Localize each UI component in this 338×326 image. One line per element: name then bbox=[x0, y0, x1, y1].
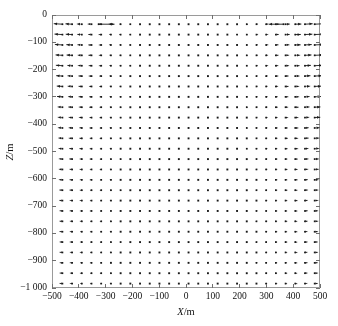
y-axis-tick bbox=[316, 124, 320, 125]
x-axis-tick bbox=[266, 284, 267, 288]
y-axis-tick bbox=[316, 151, 320, 152]
x-axis-tick-label: 300 bbox=[259, 292, 273, 302]
x-axis-tick bbox=[239, 15, 240, 19]
x-axis-tick bbox=[132, 15, 133, 19]
y-axis-tick-label: −700 bbox=[27, 201, 47, 211]
x-axis-tick-label: 0 bbox=[184, 292, 189, 302]
x-axis-tick bbox=[212, 284, 213, 288]
quiver-field-canvas bbox=[53, 16, 321, 289]
y-axis-tick-label: −1 000 bbox=[20, 283, 47, 293]
x-axis-tick bbox=[239, 284, 240, 288]
y-axis-tick-label: −100 bbox=[27, 38, 47, 48]
x-axis-tick-label: −300 bbox=[96, 292, 116, 302]
x-axis-tick bbox=[186, 15, 187, 19]
y-axis-tick bbox=[316, 233, 320, 234]
x-axis-tick bbox=[159, 15, 160, 19]
y-axis-tick-label: −600 bbox=[27, 174, 47, 184]
y-axis-tick bbox=[316, 96, 320, 97]
y-axis-tick bbox=[52, 260, 56, 261]
y-axis-tick bbox=[52, 288, 56, 289]
y-axis-tick-label: −500 bbox=[27, 147, 47, 157]
x-axis-tick bbox=[159, 284, 160, 288]
x-axis-tick-label: −400 bbox=[69, 292, 89, 302]
x-axis-title: X/m bbox=[177, 306, 195, 317]
x-axis-tick bbox=[78, 15, 79, 19]
x-axis-tick-label: −100 bbox=[149, 292, 169, 302]
y-axis-tick bbox=[52, 69, 56, 70]
y-axis-tick bbox=[316, 260, 320, 261]
x-axis-tick bbox=[212, 15, 213, 19]
y-axis-tick-label: 0 bbox=[42, 10, 47, 20]
x-axis-tick-label: 100 bbox=[206, 292, 220, 302]
y-axis-tick bbox=[52, 206, 56, 207]
x-axis-tick bbox=[52, 15, 53, 19]
x-axis-tick-label: 500 bbox=[313, 292, 327, 302]
x-axis-tick bbox=[105, 284, 106, 288]
y-axis-tick bbox=[316, 42, 320, 43]
y-axis-tick bbox=[316, 15, 320, 16]
x-axis-tick-label: −500 bbox=[42, 292, 62, 302]
y-axis-tick bbox=[52, 124, 56, 125]
y-axis-tick bbox=[52, 151, 56, 152]
x-axis-tick-label: 200 bbox=[232, 292, 246, 302]
x-axis-tick bbox=[293, 284, 294, 288]
y-axis-tick-label: −800 bbox=[27, 229, 47, 239]
y-axis-tick-label: −400 bbox=[27, 119, 47, 129]
x-axis-tick bbox=[293, 15, 294, 19]
y-axis-tick bbox=[52, 178, 56, 179]
x-axis-tick bbox=[78, 284, 79, 288]
y-axis-tick bbox=[52, 15, 56, 16]
y-axis-tick bbox=[316, 206, 320, 207]
x-axis-tick bbox=[266, 15, 267, 19]
x-axis-tick-label: 400 bbox=[286, 292, 300, 302]
vector-field-figure: −500−400−300−200−10001002003004005000−10… bbox=[0, 0, 338, 326]
x-axis-tick bbox=[186, 284, 187, 288]
y-axis-tick bbox=[52, 42, 56, 43]
x-axis-tick bbox=[320, 15, 321, 19]
y-axis-tick-label: −300 bbox=[27, 92, 47, 102]
x-axis-unit: /m bbox=[184, 306, 195, 317]
y-axis-title: Z/m bbox=[4, 144, 15, 161]
y-axis-tick bbox=[316, 178, 320, 179]
x-axis-tick bbox=[105, 15, 106, 19]
y-axis-tick bbox=[52, 233, 56, 234]
y-axis-tick bbox=[52, 96, 56, 97]
y-axis-unit: /m bbox=[4, 144, 15, 155]
y-axis-tick bbox=[316, 69, 320, 70]
y-axis-tick-label: −200 bbox=[27, 65, 47, 75]
plot-frame bbox=[52, 15, 320, 288]
y-axis-tick-label: −900 bbox=[27, 256, 47, 266]
x-axis-tick-label: −200 bbox=[123, 292, 143, 302]
y-axis-variable: Z bbox=[4, 155, 15, 161]
y-axis-tick bbox=[316, 288, 320, 289]
x-axis-tick bbox=[132, 284, 133, 288]
